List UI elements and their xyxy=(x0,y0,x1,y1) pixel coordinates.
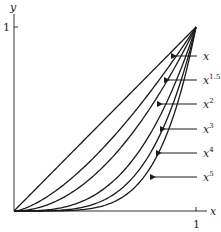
x-tick-label: 1 xyxy=(193,218,200,231)
annotation-label: x1.5 xyxy=(203,73,220,87)
curves xyxy=(14,27,196,211)
annotation-label: x5 xyxy=(203,170,214,184)
x-axis-label: x xyxy=(210,205,217,218)
power-curves-chart: y x 1 1 xx1.5x2x3x4x5 xyxy=(0,0,221,232)
y-axis-label: y xyxy=(9,1,17,14)
annotation-4: x4 xyxy=(161,146,214,160)
annotation-2: x2 xyxy=(162,97,214,111)
annotation-3: x3 xyxy=(165,122,214,136)
annotation-0: x xyxy=(176,50,210,63)
annotation-label: x xyxy=(203,50,210,63)
annotation-label: x2 xyxy=(203,97,214,111)
y-tick-label: 1 xyxy=(3,21,10,34)
curve-x xyxy=(14,27,196,211)
annotation-label: x4 xyxy=(203,146,214,160)
annotations: xx1.5x2x3x4x5 xyxy=(155,50,220,184)
annotation-label: x3 xyxy=(203,122,214,136)
annotation-1: x1.5 xyxy=(169,73,220,87)
annotation-5: x5 xyxy=(155,170,214,184)
